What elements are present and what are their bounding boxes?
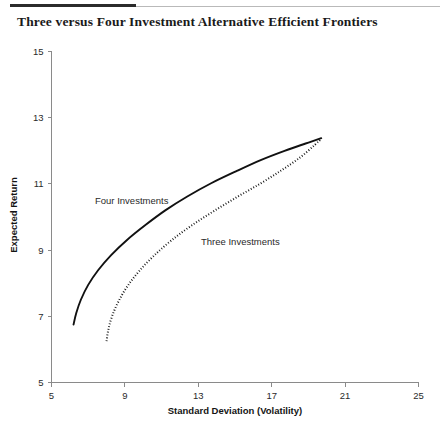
x-axis-ticks xyxy=(52,383,419,387)
y-tick-label: 13 xyxy=(33,112,44,123)
efficient-frontier-chart: 579111315 5913172125 Expected Return Sta… xyxy=(0,0,443,422)
y-axis-tick-labels: 579111315 xyxy=(33,46,44,388)
figure-container: Three versus Four Investment Alternative… xyxy=(0,0,443,422)
x-axis-title: Standard Deviation (Volatility) xyxy=(168,405,302,416)
chart-series-group xyxy=(74,138,322,341)
y-tick-label: 15 xyxy=(33,46,44,57)
x-axis-tick-labels: 5913172125 xyxy=(49,390,424,401)
series-four-investments xyxy=(74,138,322,324)
x-tick-label: 13 xyxy=(193,390,204,401)
x-tick-label: 17 xyxy=(266,390,277,401)
x-tick-label: 5 xyxy=(49,390,54,401)
x-tick-label: 21 xyxy=(340,390,351,401)
x-tick-label: 9 xyxy=(122,390,127,401)
y-tick-label: 11 xyxy=(34,178,44,189)
x-tick-label: 25 xyxy=(413,390,424,401)
y-tick-label: 5 xyxy=(38,377,43,388)
y-tick-label: 7 xyxy=(38,311,43,322)
series-label-three-investments: Three Investments xyxy=(201,236,280,247)
series-label-four-investments: Four Investments xyxy=(95,195,169,206)
y-axis-title: Expected Return xyxy=(8,177,19,253)
y-axis-ticks xyxy=(48,52,52,383)
y-tick-label: 9 xyxy=(38,245,43,256)
chart-axes xyxy=(48,52,419,387)
